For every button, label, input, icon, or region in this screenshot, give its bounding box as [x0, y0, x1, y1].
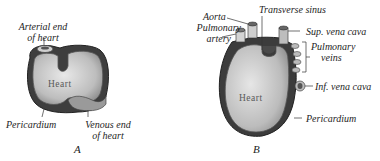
anatomy-figure: Arterial end of heart Heart Pericardium …	[0, 0, 380, 161]
label-transverse-sinus: Transverse sinus	[259, 4, 326, 15]
label-aorta: Aorta	[203, 11, 226, 22]
label-arterial-end: Arterial end of heart	[12, 21, 74, 43]
label-line: artery	[189, 33, 241, 44]
label-line: Arterial end	[12, 21, 74, 32]
label-line: veins	[311, 52, 355, 63]
label-sup-vena-cava: Sup. vena cava	[306, 26, 366, 37]
label-pericardium-a: Pericardium	[6, 119, 56, 130]
label-line: Pulmonary	[311, 41, 355, 52]
panel-a-heart	[28, 38, 109, 117]
panel-letter-b: B	[253, 143, 260, 155]
label-venous-end: Venous end of heart	[80, 119, 136, 141]
label-heart-a: Heart	[48, 79, 72, 89]
label-line: of heart	[80, 130, 136, 141]
label-inf-vena-cava: Inf. vena cava	[315, 81, 371, 92]
label-pericardium-b: Pericardium	[306, 113, 356, 124]
label-line: Pulmonary	[189, 22, 241, 33]
panel-letter-a: A	[74, 143, 81, 155]
label-pulmonary-artery: Pulmonary artery	[189, 22, 241, 44]
label-line: Venous end	[80, 119, 136, 130]
label-line: of heart	[12, 32, 74, 43]
label-heart-b: Heart	[239, 93, 263, 103]
label-pulmonary-veins: Pulmonary veins	[311, 41, 355, 63]
